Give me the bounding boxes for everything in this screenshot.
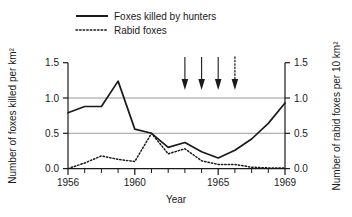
legend-label-foxes-killed: Foxes killed by hunters <box>114 11 216 22</box>
x-tick-label-1965: 1965 <box>207 177 230 188</box>
right-axis-title: Number of rabid foxes per 10 km² <box>331 41 342 191</box>
left-tick-label-1.0: 1.0 <box>45 93 59 104</box>
x-tick-label-1960: 1960 <box>124 177 147 188</box>
x-tick-label-1956: 1956 <box>57 177 80 188</box>
chart-background <box>0 0 352 217</box>
fox-population-line-chart: Foxes killed by hunters Rabid foxes 1.5 … <box>0 0 352 217</box>
chart-figure: Foxes killed by hunters Rabid foxes 1.5 … <box>0 0 352 217</box>
left-tick-label-0.5: 0.5 <box>45 128 59 139</box>
right-tick-label-1.0: 1.0 <box>294 93 308 104</box>
right-tick-label-0.5: 0.5 <box>294 128 308 139</box>
x-axis-title: Year <box>166 194 187 205</box>
right-tick-label-1.5: 1.5 <box>294 57 308 68</box>
left-tick-label-1.5: 1.5 <box>45 57 59 68</box>
legend-label-rabid-foxes: Rabid foxes <box>114 25 167 36</box>
x-tick-label-1969: 1969 <box>274 177 297 188</box>
left-axis-title: Number of foxes killed per km² <box>7 48 18 184</box>
left-tick-label-0.0: 0.0 <box>45 163 59 174</box>
right-tick-label-0.0: 0.0 <box>294 163 308 174</box>
